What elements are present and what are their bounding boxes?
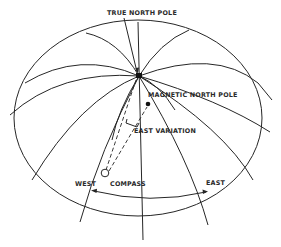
east-variation-label: EAST VARIATION bbox=[134, 127, 196, 135]
west-east-arrow bbox=[94, 191, 206, 198]
east-label: EAST bbox=[206, 179, 226, 187]
magnetic-north-pole-dot bbox=[146, 102, 151, 107]
east-arrowhead bbox=[203, 190, 209, 195]
compass-icon bbox=[101, 169, 109, 177]
west-arrowhead bbox=[91, 189, 97, 193]
true-north-pole-label: TRUE NORTH POLE bbox=[107, 9, 177, 17]
true-north-pole-marker bbox=[136, 73, 142, 78]
magnetic-north-pole-label: MAGNETIC NORTH POLE bbox=[148, 91, 238, 99]
magnetic-variation-diagram: TRUE NORTH POLE MAGNETIC NORTH POLE EAST… bbox=[0, 0, 281, 247]
west-label: WEST bbox=[75, 180, 97, 188]
compass-label: COMPASS bbox=[110, 180, 146, 188]
